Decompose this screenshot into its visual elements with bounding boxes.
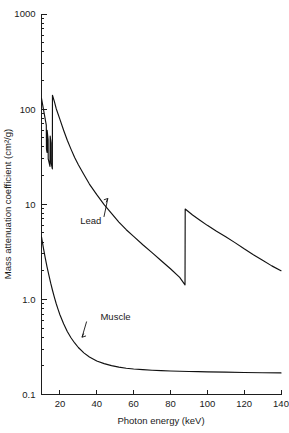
x-axis-ticks: 20406080100120140 bbox=[55, 390, 289, 409]
y-axis-tick-label: 10 bbox=[25, 199, 36, 210]
series-label-muscle: Muscle bbox=[100, 311, 130, 322]
figure-container: 0.11.0101001000 20406080100120140 LeadMu… bbox=[0, 0, 289, 433]
y-axis-tick-label: 100 bbox=[20, 104, 36, 115]
x-axis-tick-label: 100 bbox=[199, 398, 215, 409]
curve-lead bbox=[42, 95, 282, 285]
y-axis-tick-label: 1.0 bbox=[22, 294, 35, 305]
data-curves bbox=[42, 95, 282, 373]
series-label-lead: Lead bbox=[80, 215, 101, 226]
x-axis-tick-label: 20 bbox=[55, 398, 66, 409]
x-axis-tick-label: 140 bbox=[273, 398, 289, 409]
curve-muscle bbox=[42, 237, 282, 373]
x-axis-tick-label: 40 bbox=[91, 398, 102, 409]
y-axis-title: Mass attenuation coefficient (cm²/g) bbox=[2, 129, 13, 279]
x-axis-tick-label: 80 bbox=[165, 398, 176, 409]
y-axis-tick-label: 1000 bbox=[14, 8, 35, 19]
y-axis-tick-label: 0.1 bbox=[22, 389, 35, 400]
attenuation-chart: 0.11.0101001000 20406080100120140 LeadMu… bbox=[0, 0, 289, 433]
series-annotations: LeadMuscle bbox=[80, 198, 130, 337]
x-axis-tick-label: 60 bbox=[128, 398, 139, 409]
x-axis-title: Photon energy (keV) bbox=[117, 415, 204, 426]
x-axis-tick-label: 120 bbox=[236, 398, 252, 409]
axes bbox=[42, 14, 282, 395]
